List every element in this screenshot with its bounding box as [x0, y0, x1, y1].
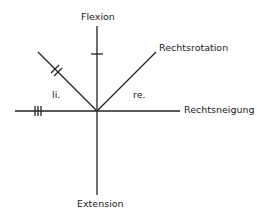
label-flexion: Flexion — [81, 11, 115, 22]
right-rotation-axis — [97, 52, 156, 111]
label-extension: Extension — [77, 198, 124, 209]
label-rechtsneigung: Rechtsneigung — [184, 104, 255, 115]
label-rechtsrotation: Rechtsrotation — [159, 42, 228, 53]
label-li: li. — [52, 89, 60, 100]
left-rotation-axis — [38, 52, 97, 111]
label-re: re. — [133, 89, 146, 100]
